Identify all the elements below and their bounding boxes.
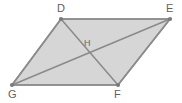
vertex-dot-D	[59, 17, 63, 21]
vertex-dot-E	[168, 17, 172, 21]
geometry-figure: D E F G H	[0, 0, 182, 103]
vertex-label-E: E	[166, 3, 173, 14]
vertex-label-F: F	[114, 89, 121, 100]
geometry-canvas	[0, 0, 182, 103]
vertex-dot-G	[10, 83, 14, 87]
vertex-dot-F	[116, 83, 120, 87]
vertex-label-D: D	[57, 3, 65, 14]
vertex-label-G: G	[8, 89, 17, 100]
intersection-label-H: H	[84, 39, 91, 48]
